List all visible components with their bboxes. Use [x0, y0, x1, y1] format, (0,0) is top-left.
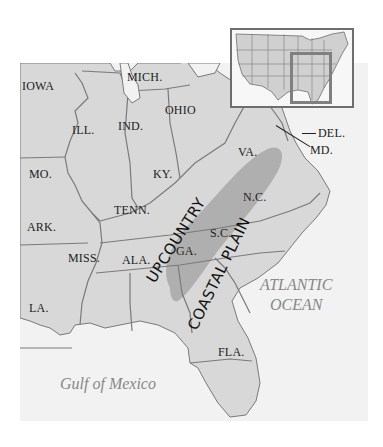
state-label-mich: MICH. [127, 70, 162, 85]
state-label-nc: N.C. [243, 190, 266, 205]
atlantic-line-1: ATLANTIC [260, 275, 332, 295]
inset-highlight-box [290, 52, 332, 104]
inset-locator-map [230, 28, 354, 108]
state-label-ark: ARK. [27, 220, 56, 235]
state-label-ala: ALA. [122, 253, 150, 268]
state-label-la: LA. [29, 301, 49, 316]
state-label-ind: IND. [118, 119, 143, 134]
atlantic-line-2: OCEAN [260, 295, 332, 315]
map-frame: IOWA MICH. ILL. IND. OHIO MO. KY. VA. DE… [20, 63, 368, 421]
state-label-miss: MISS. [68, 251, 100, 266]
leader-line-del [302, 133, 316, 134]
state-label-tenn: TENN. [114, 203, 150, 218]
state-label-fla: FLA. [218, 345, 244, 360]
state-label-md: MD. [310, 143, 333, 158]
state-label-va: VA. [238, 145, 257, 160]
state-label-iowa: IOWA [22, 79, 54, 94]
state-label-ill: ILL. [72, 123, 94, 138]
state-label-mo: MO. [29, 167, 52, 182]
state-label-ky: KY. [153, 167, 172, 182]
water-label-atlantic-ocean: ATLANTIC OCEAN [260, 275, 332, 315]
state-label-ohio: OHIO [165, 103, 196, 118]
state-label-del: DEL. [318, 126, 345, 141]
water-label-gulf-of-mexico: Gulf of Mexico [60, 375, 156, 393]
